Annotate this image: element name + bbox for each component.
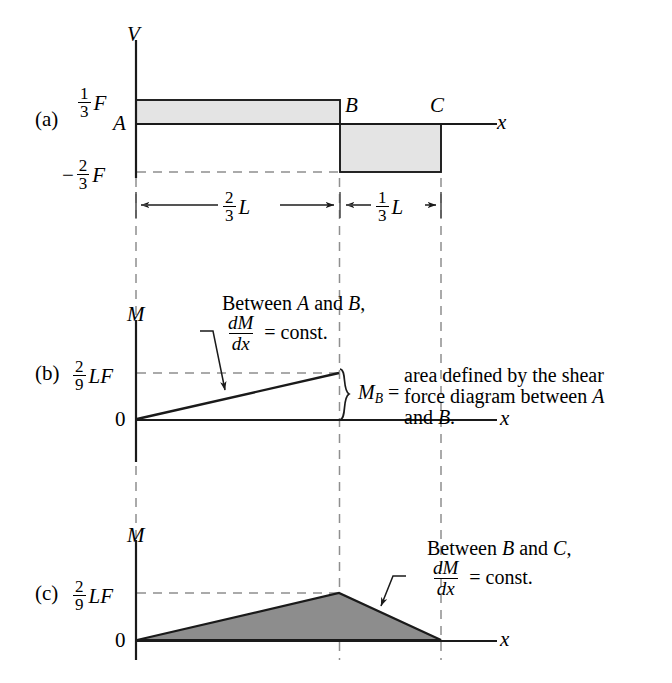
moment-subscript: B xyxy=(375,391,383,406)
panel-b-brace xyxy=(340,369,349,420)
annotation-slope-bc-formula: dM dx = const. xyxy=(427,557,533,598)
panel-tag-b: (b) xyxy=(35,363,60,384)
panel-c-zero-label: 0 xyxy=(115,630,126,651)
equals-sign: = xyxy=(388,381,399,403)
shear-positive-value-label: 1 3 F xyxy=(77,86,106,122)
fraction-two-ninths: 2 9 xyxy=(73,578,86,614)
panel-b-zero-label: 0 xyxy=(115,409,126,430)
fraction-two-thirds: 2 3 xyxy=(223,189,236,225)
annotation-equals: = const. xyxy=(264,322,328,342)
dimension-label-bc: 1 3 L xyxy=(375,190,403,226)
panel-tag-c: (c) xyxy=(35,583,58,604)
minus-sign: − xyxy=(62,165,74,186)
panel-tag-a: (a) xyxy=(35,109,58,130)
fraction-two-ninths: 2 9 xyxy=(73,358,86,394)
fraction-two-thirds: 2 3 xyxy=(77,157,90,193)
unit-length-force: LF xyxy=(89,586,114,607)
panel-a-x-axis-label: x xyxy=(497,112,506,133)
panel-c-x-axis-label: x xyxy=(500,629,509,650)
annotation-slope-ab-formula: dM dx = const. xyxy=(222,312,328,353)
annotation-mb-symbol: MB= xyxy=(358,382,399,405)
annotation-mb-line3: and B. xyxy=(404,406,455,430)
panel-c-leader-line xyxy=(381,576,406,606)
panel-b-x-axis-label: x xyxy=(500,408,509,429)
shear-negative-value-label: − 2 3 F xyxy=(62,158,105,194)
fraction-one-third: 1 3 xyxy=(376,189,389,225)
panel-b-moment-line xyxy=(137,373,339,419)
panel-c-peak-value-label: 2 9 LF xyxy=(72,579,113,615)
shear-block-positive xyxy=(136,100,340,124)
unit-length: L xyxy=(239,197,251,218)
panel-c-moment-area xyxy=(137,593,441,640)
panel-a-v-axis-label: V xyxy=(127,24,140,45)
derivative-fraction: dM dx xyxy=(430,558,461,599)
unit-force: F xyxy=(92,165,105,186)
unit-length: L xyxy=(392,197,404,218)
shear-block-negative xyxy=(340,124,441,172)
panel-c-m-axis-label: M xyxy=(127,525,145,546)
point-label-b: B xyxy=(345,95,358,116)
annotation-equals: = const. xyxy=(469,567,533,587)
panel-b-peak-value-label: 2 9 LF xyxy=(72,359,113,395)
point-label-a: A xyxy=(113,113,126,134)
fraction-one-third: 1 3 xyxy=(78,85,91,121)
annotation-text: Between A and B, xyxy=(222,292,365,314)
point-label-c: C xyxy=(430,95,444,116)
panel-a-shear-diagram xyxy=(136,40,497,222)
derivative-fraction: dM dx xyxy=(225,313,256,354)
dimension-label-ab: 2 3 L xyxy=(222,190,250,226)
panel-b-m-axis-label: M xyxy=(127,304,145,325)
unit-force: F xyxy=(94,93,107,114)
moment-symbol: M xyxy=(358,381,375,403)
unit-length-force: LF xyxy=(89,366,114,387)
figure-root: (a) V x 1 3 F A − 2 3 F B C 2 3 L 1 3 xyxy=(0,0,672,683)
